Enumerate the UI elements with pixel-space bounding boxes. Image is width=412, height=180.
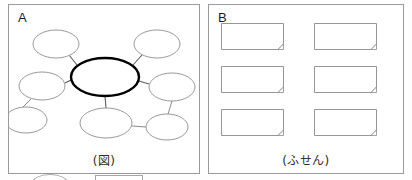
diagram-node-mid-right[interactable] bbox=[149, 73, 195, 101]
panel-b: B (ふせん) bbox=[208, 4, 404, 174]
sticky-note[interactable] bbox=[314, 23, 377, 50]
diagram-node-mid-left[interactable] bbox=[19, 72, 65, 100]
sticky-note-body bbox=[315, 24, 377, 50]
sticky-note[interactable] bbox=[314, 66, 377, 93]
sticky-note-grid bbox=[209, 21, 405, 147]
panel-b-caption: (ふせん) bbox=[209, 155, 403, 167]
sticky-note-body bbox=[315, 67, 377, 93]
diagram-node-center[interactable] bbox=[71, 58, 139, 96]
diagram-node-lower-right[interactable] bbox=[146, 114, 188, 140]
sticky-note[interactable] bbox=[221, 66, 284, 93]
concept-map-diagram bbox=[9, 19, 201, 147]
diagram-link-mid-right-to-lower-right bbox=[168, 101, 172, 114]
diagram-link-bottom-mid-to-lower-right bbox=[132, 126, 146, 127]
panel-a-caption: (図) bbox=[9, 155, 199, 167]
diagram-node-top-right[interactable] bbox=[134, 30, 180, 58]
diagram-link-center-to-mid-right bbox=[139, 81, 149, 84]
sticky-note-body bbox=[315, 110, 377, 136]
diagram-node-bottom-mid[interactable] bbox=[80, 108, 132, 138]
sticky-note-body bbox=[222, 67, 284, 93]
diagram-link-center-to-mid-left bbox=[65, 80, 71, 83]
diagram-node-lower-left[interactable] bbox=[9, 107, 47, 133]
cropped-bottom-strip bbox=[0, 174, 412, 180]
diagram-link-mid-left-to-lower-left bbox=[23, 99, 31, 107]
sticky-note[interactable] bbox=[221, 109, 284, 136]
sticky-note-body bbox=[222, 110, 284, 136]
cropped-rectangle-icon bbox=[95, 175, 143, 180]
panel-a: A (図) bbox=[8, 4, 200, 174]
sticky-note[interactable] bbox=[221, 23, 284, 50]
diagram-link-center-to-bottom-mid bbox=[105, 96, 106, 108]
diagram-nodes bbox=[9, 30, 195, 140]
page-root: A (図) B (ふせん) bbox=[0, 0, 412, 180]
sticky-note-body bbox=[222, 24, 284, 50]
diagram-link-center-to-top-left bbox=[69, 55, 77, 65]
cropped-ellipse-icon bbox=[32, 174, 68, 180]
diagram-node-top-left[interactable] bbox=[33, 30, 79, 58]
sticky-note[interactable] bbox=[314, 109, 377, 136]
diagram-link-center-to-top-right bbox=[133, 55, 142, 65]
